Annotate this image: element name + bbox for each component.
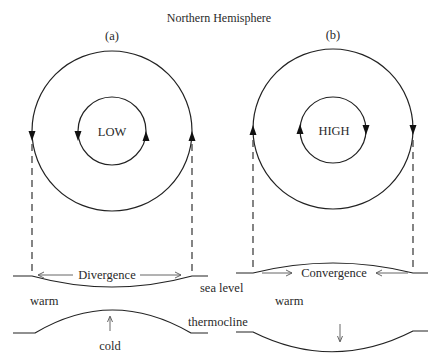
panel-a-flow-label: Divergence	[78, 268, 136, 282]
panel-a: (a) LOW Divergence warm cold	[13, 29, 208, 353]
panel-b-warm-label: warm	[275, 294, 304, 308]
panel-a-center-label: LOW	[98, 125, 127, 139]
panel-b-outer-arrow-right-icon	[410, 125, 417, 135]
ocean-gyre-diagram: Northern Hemisphere (a) LOW Divergence w…	[0, 0, 438, 363]
panel-a-cold-label: cold	[99, 339, 121, 353]
panel-a-inner-arrow-right-icon	[143, 131, 150, 141]
panel-b-thermocline	[236, 331, 428, 352]
panel-a-label: (a)	[105, 29, 119, 43]
panel-b-inner-arrow-right-icon	[363, 125, 370, 135]
panel-a-inner-arrow-left-icon	[75, 131, 82, 141]
panel-a-outer-arrow-left-icon	[29, 131, 36, 141]
panel-a-thermocline	[13, 310, 208, 333]
panel-b-center-label: HIGH	[318, 124, 349, 138]
panel-b-label: (b)	[326, 28, 341, 42]
panel-b-inner-arrow-left-icon	[297, 124, 304, 134]
thermocline-label: thermocline	[188, 315, 248, 329]
panel-b-flow-label: Convergence	[301, 266, 367, 280]
panel-b: (b) HIGH Convergence warm	[236, 28, 428, 352]
sea-level-label: sea level	[200, 281, 244, 295]
panel-a-outer-arrow-right-icon	[189, 131, 196, 141]
diagram-title: Northern Hemisphere	[167, 11, 271, 25]
panel-b-outer-arrow-left-icon	[250, 125, 257, 135]
panel-a-warm-label: warm	[30, 294, 59, 308]
